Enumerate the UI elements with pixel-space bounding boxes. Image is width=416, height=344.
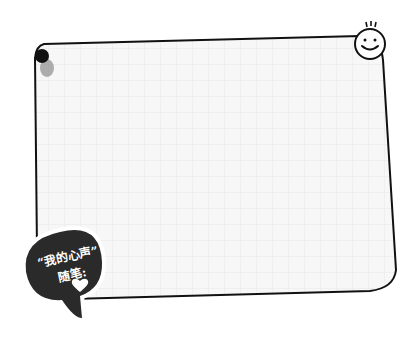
note-graphic: [0, 0, 416, 344]
note-card: “我的心声” 随笔:: [0, 0, 416, 344]
smiley-face-icon: [355, 21, 385, 59]
